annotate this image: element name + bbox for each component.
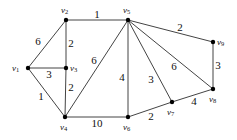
node-v8 [211,87,215,91]
node-label-v3: v3 [70,63,77,73]
node-label-v5: v5 [123,5,130,15]
node-v7 [170,100,174,104]
edge-weight-v5-v9: 2 [177,21,183,33]
edge-weight-v5-v6: 4 [119,71,125,83]
edge-weight-v1-v2: 6 [35,35,41,47]
node-label-v4: v4 [60,122,68,132]
edge-weight-v5-v7: 3 [148,73,154,85]
node-label-subscript: 7 [171,110,175,117]
node-label-subscript: 5 [127,8,130,15]
node-labels-layer: v1v2v3v4v5v6v7v8v9 [12,5,224,132]
node-label-v9: v9 [217,37,224,47]
edge-weight-v2-v5: 1 [94,8,100,20]
node-label-subscript: 4 [64,125,68,132]
node-v6 [126,115,130,119]
edge-weight-v7-v8: 4 [191,95,197,107]
edge-weight-v4-v5: 6 [91,54,97,66]
edge-weight-v1-v3: 3 [46,68,52,80]
edge-weight-v3-v4: 2 [68,81,74,93]
edge-weight-v2-v3: 2 [68,37,74,49]
node-v2 [64,18,68,22]
node-label-subscript: 6 [127,125,131,132]
edges-layer [28,20,213,117]
edge-v3-v4 [65,68,66,117]
node-label-v1: v1 [12,63,19,73]
node-label-subscript: 3 [74,66,77,73]
node-label-v7: v7 [167,107,175,117]
node-label-subscript: 9 [221,40,224,47]
node-label-v6: v6 [123,122,131,132]
edge-v1-v2 [28,20,66,68]
node-label-subscript: 1 [16,66,19,73]
edge-v5-v9 [128,20,213,42]
edge-v5-v8 [128,20,213,89]
node-label-subscript: 8 [213,97,216,104]
node-label-v8: v8 [209,94,216,104]
edge-weight-v5-v8: 6 [171,60,177,72]
edge-v5-v7 [128,20,172,102]
edge-weight-v9-v8: 3 [215,59,221,71]
node-v9 [211,40,215,44]
edge-weight-v1-v4: 1 [38,90,44,102]
node-v4 [63,115,67,119]
edge-weight-v6-v7: 2 [148,110,154,122]
node-label-v2: v2 [61,5,68,15]
edge-weight-v4-v6: 10 [92,117,104,129]
weighted-graph-diagram: 6312216104362324 v1v2v3v4v5v6v7v8v9 [0,0,237,140]
node-v5 [126,18,130,22]
node-v3 [64,66,68,70]
node-label-subscript: 2 [65,8,68,15]
node-v1 [26,66,30,70]
